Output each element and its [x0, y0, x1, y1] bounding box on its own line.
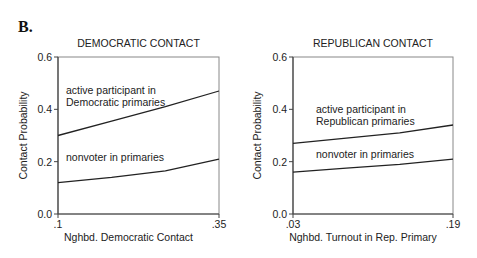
y-tick-label: 0.2 — [272, 156, 287, 168]
chart-title: DEMOCRATIC CONTACT — [77, 37, 200, 49]
series-annotation: Democratic primaries — [66, 96, 165, 108]
series-annotation: nonvoter in primaries — [66, 151, 164, 163]
y-axis-label: Contact Probability — [17, 91, 29, 180]
y-tick-label: 0.2 — [37, 156, 52, 168]
y-axis-label: Contact Probability — [251, 91, 263, 180]
y-tick-label: 0.6 — [272, 51, 287, 63]
x-tick-label: .35 — [212, 218, 227, 230]
chart-canvas: DEMOCRATIC CONTACT0.00.20.40.6.1.35Nghbd… — [0, 0, 477, 258]
y-tick-label: 0.4 — [272, 103, 287, 115]
x-axis-label: Nghbd. Turnout in Rep. Primary — [289, 231, 437, 243]
plot-frame — [58, 57, 219, 214]
series-line — [293, 125, 453, 143]
y-tick-label: 0.0 — [37, 208, 52, 220]
series-annotation: Republican primaries — [316, 115, 415, 127]
x-tick-label: .1 — [54, 218, 63, 230]
x-axis-label: Nghbd. Democratic Contact — [64, 231, 193, 243]
series-annotation: nonvoter in primaries — [316, 148, 414, 160]
series-annotation: active participant in — [66, 84, 156, 96]
x-tick-label: .03 — [286, 218, 301, 230]
y-tick-label: 0.6 — [37, 51, 52, 63]
y-tick-label: 0.4 — [37, 103, 52, 115]
chart-title: REPUBLICAN CONTACT — [313, 37, 434, 49]
series-line — [293, 159, 453, 172]
series-annotation: active participant in — [316, 103, 406, 115]
x-tick-label: .19 — [446, 218, 461, 230]
